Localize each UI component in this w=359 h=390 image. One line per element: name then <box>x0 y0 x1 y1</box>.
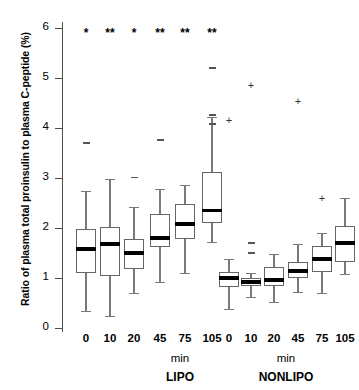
whisker-cap-upper <box>293 244 303 245</box>
outlier-marker <box>209 114 216 116</box>
whisker-cap-upper <box>317 233 327 234</box>
box-lipo-0 <box>76 229 96 273</box>
whisker-cap-lower <box>224 309 234 310</box>
significance-marker-20: * <box>121 28 147 38</box>
median-line <box>335 241 355 244</box>
whisker-cap-lower <box>81 311 91 312</box>
median-line <box>312 257 332 260</box>
whisker-cap-upper <box>224 259 234 260</box>
box-lipo-10 <box>100 227 120 276</box>
lipo-group-label: LIPO <box>125 370 235 384</box>
box-nonlipo-20 <box>264 267 284 286</box>
whisker-cap-lower <box>155 282 165 283</box>
whisker-cap-upper <box>81 191 91 192</box>
whisker-cap-lower <box>246 297 256 298</box>
x-tick-label-lipo-20: 20 <box>121 332 147 344</box>
whisker-cap-upper <box>246 273 256 274</box>
significance-marker-0: * <box>73 28 99 38</box>
median-line <box>202 209 222 212</box>
whisker-cap-lower <box>105 316 115 317</box>
outlier-marker <box>248 242 255 244</box>
whisker-cap-upper <box>105 179 115 180</box>
significance-marker-75: ** <box>172 28 198 38</box>
whisker-cap-lower <box>317 293 327 294</box>
x-tick-label-lipo-45: 45 <box>147 332 173 344</box>
outlier-marker: + <box>294 97 303 106</box>
significance-marker-105: ** <box>199 28 225 38</box>
x-tick-label-lipo-75: 75 <box>172 332 198 344</box>
median-line <box>100 242 120 245</box>
outlier-marker <box>209 123 216 125</box>
box-lipo-105 <box>202 172 222 223</box>
x-tick-label-lipo-0: 0 <box>73 332 99 344</box>
outlier-marker: + <box>318 194 327 203</box>
outlier-marker: + <box>247 81 256 90</box>
whisker-cap-lower <box>269 302 279 303</box>
whisker-cap-upper <box>155 189 165 190</box>
whisker-cap-upper <box>207 117 217 118</box>
lipo-unit-label: min <box>150 352 210 364</box>
whisker-cap-upper <box>340 198 350 199</box>
median-line <box>241 280 261 283</box>
median-line <box>219 276 239 279</box>
whisker-cap-upper <box>269 254 279 255</box>
whisker-cap-upper <box>180 185 190 186</box>
whisker-cap-lower <box>180 273 190 274</box>
whisker-cap-lower <box>293 292 303 293</box>
median-line <box>76 247 96 250</box>
median-line <box>150 236 170 239</box>
significance-marker-45: ** <box>147 28 173 38</box>
nonlipo-group-label: NONLIPO <box>231 370 341 384</box>
outlier-marker <box>83 142 90 144</box>
median-line <box>288 269 308 272</box>
whisker-cap-lower <box>129 293 139 294</box>
whisker-cap-upper <box>129 207 139 208</box>
outlier-marker <box>209 67 216 69</box>
outlier-marker <box>131 177 138 179</box>
nonlipo-unit-label: min <box>256 352 316 364</box>
box-plot-figure: Ratio of plasma total proinsulin to plas… <box>0 0 359 390</box>
whisker-cap-lower <box>207 242 217 243</box>
outlier-marker <box>157 139 164 141</box>
whisker-cap-lower <box>340 274 350 275</box>
x-tick-label-nonlipo-105: 105 <box>332 332 358 344</box>
median-line <box>124 251 144 254</box>
x-tick-label-nonlipo-45: 45 <box>285 332 311 344</box>
significance-marker-10: ** <box>97 28 123 38</box>
median-line <box>175 222 195 225</box>
median-line <box>264 278 284 281</box>
x-tick-label-nonlipo-20: 20 <box>261 332 287 344</box>
outlier-marker: + <box>225 116 234 125</box>
box-lipo-45 <box>150 214 170 247</box>
x-tick-label-lipo-10: 10 <box>97 332 123 344</box>
outlier-marker <box>248 252 255 254</box>
